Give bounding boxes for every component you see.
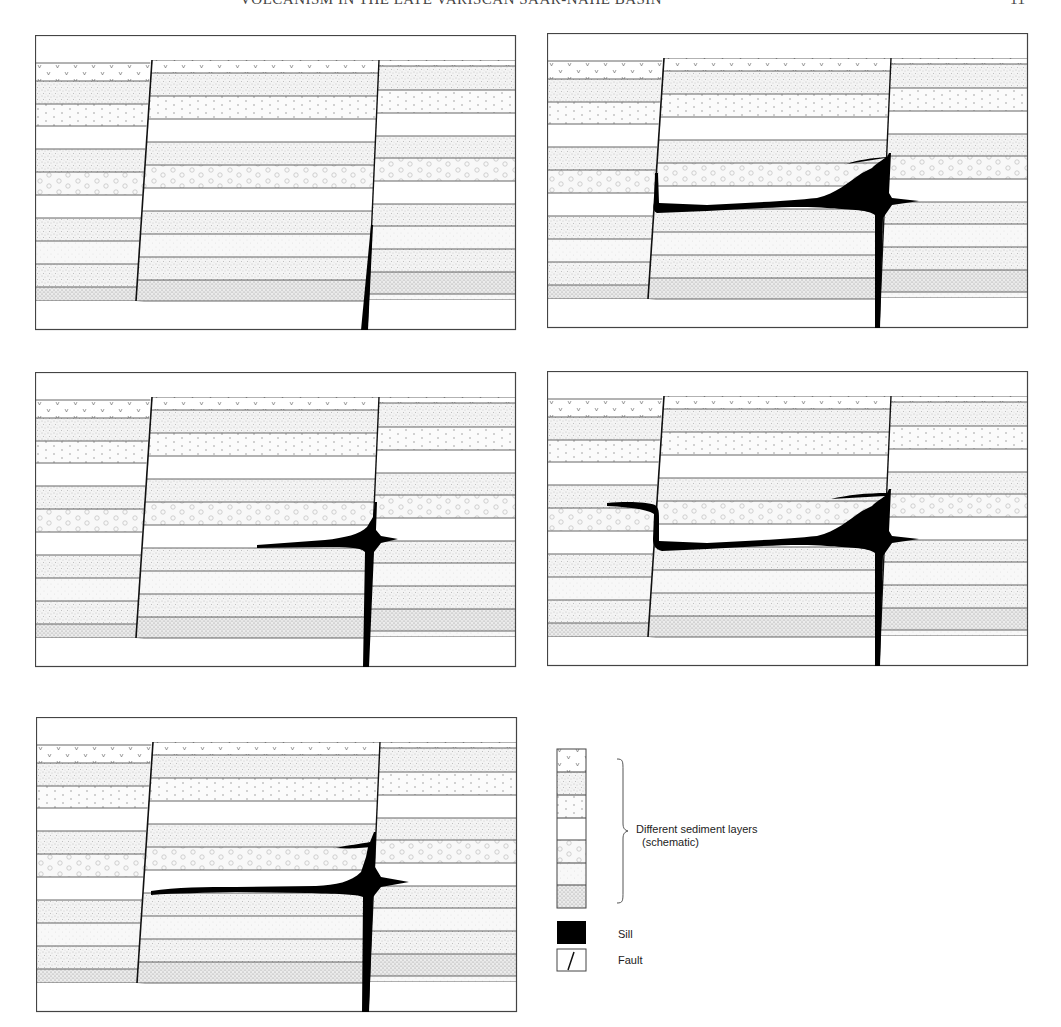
cross-section-diagram (547, 33, 1029, 329)
page-header: VOLCANISM IN THE LATE VARISCAN SAAR-NAHE… (0, 0, 1061, 9)
circles-swatch (557, 840, 586, 863)
panel-stage-5 (36, 717, 518, 1013)
panel-stage-4 (547, 371, 1029, 667)
brace-icon (617, 759, 628, 903)
legend: Different sediment layers (schematic) Si… (555, 747, 855, 977)
legend-layers-sublabel: (schematic) (642, 836, 699, 849)
cross-section-diagram (36, 717, 518, 1013)
cross-section-diagram (35, 372, 517, 668)
legend-fault-label: Fault (618, 954, 642, 967)
legend-layers-label: Different sediment layers (636, 823, 757, 836)
blank-swatch (557, 818, 586, 840)
dense-stipple-swatch (557, 885, 586, 908)
sill-swatch (557, 921, 586, 944)
legend-sill-label: Sill (618, 928, 633, 941)
dots-swatch (557, 795, 586, 818)
v-pattern-swatch (557, 749, 586, 772)
stipple-swatch (557, 772, 586, 795)
running-title: VOLCANISM IN THE LATE VARISCAN SAAR-NAHE… (240, 0, 662, 8)
light-stipple-swatch (557, 863, 586, 885)
panel-stage-3 (35, 372, 517, 668)
panel-stage-2 (547, 33, 1029, 329)
cross-section-diagram (35, 35, 517, 331)
cross-section-diagram (547, 371, 1029, 667)
panel-stage-1 (35, 35, 517, 331)
sediment-layer-swatches (557, 749, 586, 908)
page-number: 11 (1010, 0, 1025, 8)
